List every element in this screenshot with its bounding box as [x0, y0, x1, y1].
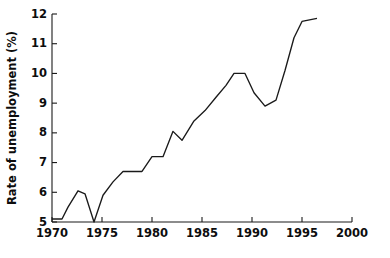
series-line [52, 18, 317, 222]
y-tick-label: 11 [31, 36, 47, 50]
y-tick-label: 12 [31, 7, 47, 21]
y-tick-label: 10 [31, 66, 47, 80]
x-tick-labels: 1970197519801985199019952000 [36, 226, 368, 240]
y-tick-label: 9 [39, 96, 47, 110]
y-axis-title-text: Rate of unemployment (%) [5, 31, 19, 205]
x-tick-label: 2000 [336, 226, 368, 240]
data-series-group [52, 18, 317, 222]
x-tick-label: 1990 [236, 226, 268, 240]
y-tick-group [52, 14, 57, 222]
x-tick-label: 1980 [136, 226, 168, 240]
x-tick-label: 1970 [36, 226, 68, 240]
x-tick-label: 1995 [286, 226, 318, 240]
y-tick-labels: 56789101112 [31, 7, 47, 229]
y-tick-label: 6 [39, 185, 47, 199]
x-tick-label: 1985 [186, 226, 218, 240]
y-tick-label: 8 [39, 125, 47, 139]
y-axis-title: Rate of unemployment (%) [5, 31, 19, 205]
y-tick-label: 7 [39, 155, 47, 169]
unemployment-line-chart: 56789101112 1970197519801985199019952000… [0, 0, 390, 258]
x-tick-label: 1975 [86, 226, 118, 240]
chart-canvas: 56789101112 1970197519801985199019952000… [0, 0, 390, 258]
x-tick-group [52, 217, 352, 222]
